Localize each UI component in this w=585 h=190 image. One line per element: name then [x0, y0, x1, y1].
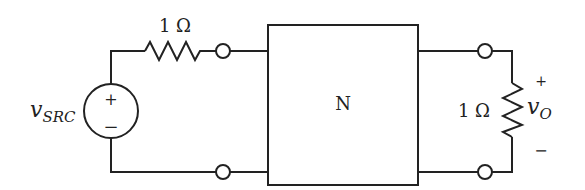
output-plus-sign: +: [535, 73, 547, 89]
load-resistor-label: 1 Ω: [458, 100, 490, 121]
wire-source-bottom: [111, 138, 216, 172]
circuit-diagram: + − N 1 Ω 1 Ω vSRC vO + −: [0, 0, 585, 190]
wire-load-top: [492, 51, 512, 83]
output-terminal-bottom: [478, 165, 492, 179]
source-minus-sign: −: [103, 116, 118, 137]
input-terminal-top: [216, 44, 230, 58]
wire-load-bottom: [492, 137, 512, 172]
load-resistor: [503, 83, 522, 137]
wire-source-top: [111, 51, 145, 84]
source-plus-sign: +: [104, 90, 117, 109]
series-resistor: [145, 42, 216, 60]
source-voltage-label: vSRC: [30, 97, 76, 126]
series-resistor-label: 1 Ω: [159, 15, 191, 36]
output-minus-sign: −: [534, 141, 547, 160]
input-terminal-bottom: [216, 165, 230, 179]
output-voltage-label: vO: [527, 94, 552, 123]
output-terminal-top: [478, 44, 492, 58]
network-label: N: [335, 93, 351, 114]
